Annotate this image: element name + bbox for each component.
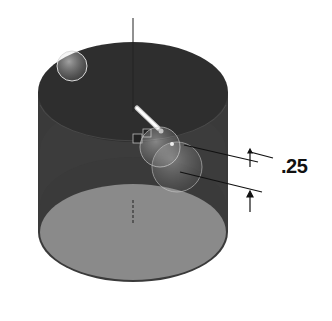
- sphere-handle-icon[interactable]: [152, 142, 202, 192]
- model-viewport[interactable]: .25: [0, 0, 332, 321]
- sphere-handle-icon[interactable]: [57, 51, 87, 81]
- dimension-value-label[interactable]: .25: [281, 155, 307, 178]
